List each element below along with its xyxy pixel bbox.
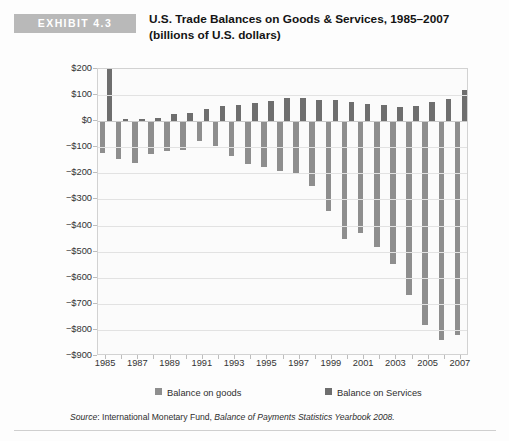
exhibit-container: EXHIBIT 4.3 U.S. Trade Balances on Goods…: [0, 0, 509, 441]
bar-services: [268, 101, 274, 121]
bar-services: [446, 99, 452, 121]
bar-goods: [132, 121, 138, 163]
bar-services: [429, 102, 435, 121]
x-axis-label: 2007: [450, 358, 471, 368]
x-axis-tick: [460, 355, 461, 359]
bar-goods: [422, 121, 428, 325]
x-axis-label: 1995: [256, 358, 277, 368]
y-axis-tick: [93, 355, 97, 356]
title-line-1: U.S. Trade Balances on Goods & Services,…: [149, 12, 499, 28]
bar-services: [236, 105, 242, 121]
source-label: Source: [70, 412, 97, 422]
y-axis-label: −$600: [66, 272, 92, 282]
y-axis-label: −$400: [66, 220, 92, 230]
x-axis-tick: [186, 355, 187, 359]
bar-goods: [342, 121, 348, 239]
y-axis-label: $100: [71, 89, 92, 99]
bar-goods: [277, 121, 283, 171]
bar-services: [365, 104, 371, 121]
exhibit-header: EXHIBIT 4.3 U.S. Trade Balances on Goods…: [14, 14, 496, 50]
x-axis-tick: [299, 355, 300, 359]
y-axis: $200$100$0−$100−$200−$300−$400−$500−$600…: [34, 60, 92, 365]
source-body: International Monetary Fund,: [102, 412, 214, 422]
gridline: [98, 278, 467, 279]
bar-goods: [455, 121, 461, 335]
x-axis-label: 2001: [353, 358, 374, 368]
bar-services: [413, 106, 419, 121]
x-axis-label: 1991: [192, 358, 213, 368]
gridline: [98, 304, 467, 305]
x-axis-tick: [379, 355, 380, 359]
x-axis-label: 1987: [127, 358, 148, 368]
bar-services: [381, 105, 387, 121]
source-note: Source: International Monetary Fund, Bal…: [70, 412, 490, 422]
zero-line: [98, 121, 467, 122]
bottom-divider: [14, 430, 496, 431]
bar-goods: [439, 121, 445, 340]
gridline: [98, 95, 467, 96]
bar-services: [300, 98, 306, 121]
x-axis-tick: [412, 355, 413, 359]
x-axis-tick: [283, 355, 284, 359]
x-axis-label: 1999: [321, 358, 342, 368]
y-axis-label: $200: [71, 63, 92, 73]
title-line-2: (billions of U.S. dollars): [149, 28, 499, 44]
x-axis-label: 1997: [288, 358, 309, 368]
bar-services: [204, 109, 210, 121]
bar-goods: [229, 121, 235, 156]
bar-goods: [309, 121, 315, 185]
bar-goods: [180, 121, 186, 150]
bars-layer: [98, 69, 467, 354]
y-axis-label: −$300: [66, 193, 92, 203]
x-axis-label: 1985: [95, 358, 116, 368]
bar-services: [397, 107, 403, 121]
gridline: [98, 173, 467, 174]
bar-services: [333, 100, 339, 121]
x-axis-label: 1993: [224, 358, 245, 368]
bar-services: [252, 103, 258, 121]
source-title: Balance of Payments Statistics Yearbook …: [214, 412, 394, 422]
y-axis-label: −$800: [66, 324, 92, 334]
bar-services: [187, 113, 193, 121]
x-axis-tick: [170, 355, 171, 359]
x-axis-tick: [105, 355, 106, 359]
gridline: [98, 147, 467, 148]
legend-swatch-icon: [325, 388, 332, 395]
bar-services: [316, 100, 322, 122]
x-axis-tick: [121, 355, 122, 359]
bar-services: [220, 106, 226, 121]
bar-goods: [245, 121, 251, 164]
bar-goods: [197, 121, 203, 141]
x-axis-tick: [347, 355, 348, 359]
bar-goods: [326, 121, 332, 211]
legend-item: Balance on goods: [155, 388, 241, 400]
bar-goods: [374, 121, 380, 247]
x-axis: 1985198719891991199319951997199920012003…: [97, 358, 468, 374]
gridline: [98, 330, 467, 331]
bar-services: [284, 98, 290, 121]
y-axis-label: −$900: [66, 350, 92, 360]
x-axis-tick: [137, 355, 138, 359]
bar-goods: [213, 121, 219, 146]
x-axis-tick: [363, 355, 364, 359]
bar-goods: [358, 121, 364, 232]
x-axis-tick: [444, 355, 445, 359]
x-axis-tick: [218, 355, 219, 359]
y-axis-label: −$200: [66, 167, 92, 177]
x-axis-label: 2005: [417, 358, 438, 368]
legend-swatch-icon: [155, 388, 162, 395]
x-axis-tick: [266, 355, 267, 359]
x-axis-tick: [202, 355, 203, 359]
chart-legend: Balance on goodsBalance on Services: [97, 388, 468, 402]
legend-item: Balance on Services: [325, 388, 422, 400]
x-axis-tick: [428, 355, 429, 359]
legend-label: Balance on Services: [337, 388, 422, 398]
x-axis-tick: [250, 355, 251, 359]
y-axis-label: −$700: [66, 298, 92, 308]
y-axis-label: −$100: [66, 141, 92, 151]
exhibit-badge: EXHIBIT 4.3: [14, 14, 136, 33]
bar-services: [171, 114, 177, 121]
x-axis-tick: [315, 355, 316, 359]
page-title: U.S. Trade Balances on Goods & Services,…: [149, 12, 499, 43]
bar-goods: [261, 121, 267, 166]
